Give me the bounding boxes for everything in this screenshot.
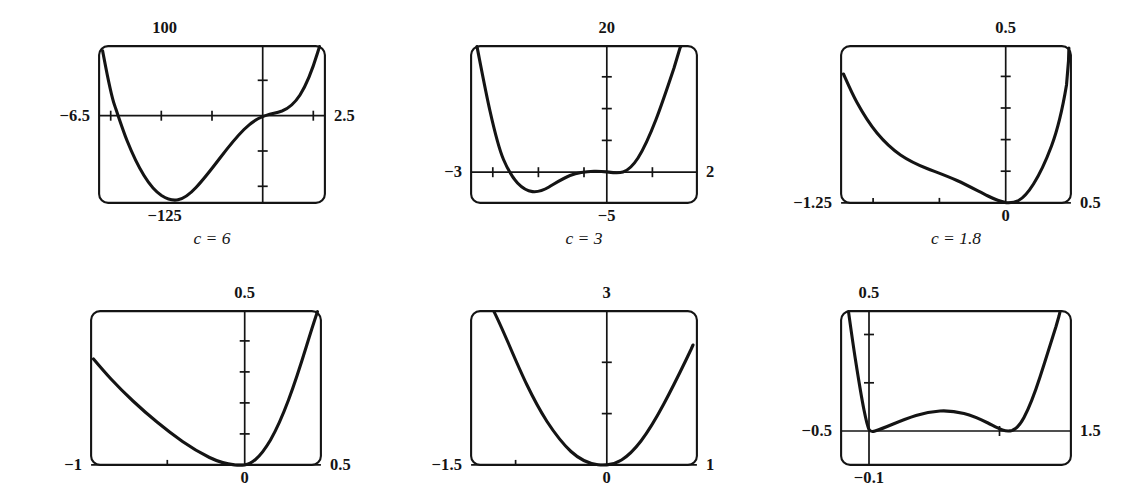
graph-panel-5: 3 0 −1.5 1: [470, 310, 698, 466]
axis-label-right-1: 2.5: [334, 107, 355, 124]
axis-label-top-4: 0.5: [234, 285, 255, 302]
graph-canvas-5: [470, 310, 698, 466]
axis-label-left-4: −1: [64, 457, 82, 474]
axis-label-bottom-2: −5: [598, 208, 616, 225]
caption-text-2: c = 3: [565, 228, 602, 248]
graph-panel-6: 0.5 −0.1 −0.5 1.5: [840, 310, 1072, 466]
axis-label-right-5: 1: [706, 457, 714, 474]
axis-label-bottom-1: −125: [147, 208, 182, 225]
graph-canvas-3: [840, 45, 1072, 204]
graph-panel-2: 20 −5 −3 2: [470, 45, 698, 204]
graph-panel-3: 0.5 0 −1.25 0.5: [840, 45, 1072, 204]
axis-label-right-4: 0.5: [330, 457, 351, 474]
axis-label-top-5: 3: [603, 285, 611, 302]
axis-label-top-6: 0.5: [859, 285, 880, 302]
axis-label-left-2: −3: [444, 164, 462, 181]
axis-label-left-5: −1.5: [432, 457, 462, 474]
axis-label-top-2: 20: [598, 20, 615, 37]
axis-label-left-6: −0.5: [802, 423, 832, 440]
caption-c-6: c = 6: [193, 228, 230, 249]
axis-label-right-3: 0.5: [1080, 195, 1101, 212]
caption-text-3: c = 1.8: [931, 228, 981, 248]
axis-label-bottom-5: 0: [603, 470, 611, 487]
axis-label-left-1: −6.5: [60, 107, 90, 124]
caption-c-1-8: c = 1.8: [931, 228, 981, 249]
axis-label-bottom-4: 0: [241, 470, 249, 487]
axis-label-left-3: −1.25: [793, 195, 832, 212]
viewing-window-frame: [99, 46, 325, 203]
caption-c-3: c = 3: [565, 228, 602, 249]
axis-label-right-6: 1.5: [1080, 423, 1101, 440]
axis-label-top-3: 0.5: [995, 20, 1016, 37]
graph-panel-4: 0.5 0 −1 0.5: [90, 310, 322, 466]
viewing-window-frame: [471, 46, 697, 203]
graph-panel-1: 100 −125 −6.5 2.5: [98, 45, 326, 204]
graph-canvas-1: [98, 45, 326, 204]
axis-label-bottom-3: 0: [1002, 208, 1010, 225]
graph-canvas-4: [90, 310, 322, 466]
axis-label-bottom-6: −0.1: [854, 470, 884, 487]
caption-text-1: c = 6: [193, 228, 230, 248]
graph-canvas-6: [840, 310, 1072, 466]
axis-label-top-1: 100: [152, 20, 177, 37]
graph-canvas-2: [470, 45, 698, 204]
viewing-window-frame: [91, 311, 321, 465]
axis-label-right-2: 2: [706, 164, 714, 181]
figure-root: 100 −125 −6.5 2.5 20 −5: [0, 0, 1143, 488]
